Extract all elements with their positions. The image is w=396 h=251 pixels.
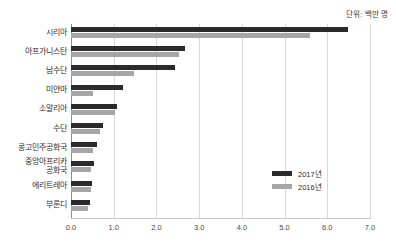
category-label: 아프가니스탄 xyxy=(1,47,67,56)
bar-2017 xyxy=(71,161,94,166)
x-tick-label: 7.0 xyxy=(365,223,375,232)
x-tick-label: 0.0 xyxy=(66,223,76,232)
legend-swatch-2017 xyxy=(272,171,292,176)
bar-group xyxy=(71,26,370,43)
bar-2016 xyxy=(71,52,179,57)
bar-2017 xyxy=(71,200,90,205)
category-label: 중앙아프리카 공화국 xyxy=(1,157,67,175)
bar-2016 xyxy=(71,187,91,192)
legend-swatch-2016 xyxy=(272,184,292,189)
bar-2016 xyxy=(71,148,93,153)
x-tick-label: 1.0 xyxy=(108,223,118,232)
category-label: 남수단 xyxy=(1,66,67,75)
legend-label-2016: 2016년 xyxy=(298,181,322,192)
x-tick-label: 5.0 xyxy=(279,223,289,232)
bar-2017 xyxy=(71,181,92,186)
category-label: 수단 xyxy=(1,124,67,133)
bar-2017 xyxy=(71,85,123,90)
category-label: 소말리아 xyxy=(1,104,67,113)
bar-2016 xyxy=(71,206,88,211)
bar-2016 xyxy=(71,129,100,134)
x-tick-label: 3.0 xyxy=(194,223,204,232)
x-tick-label: 4.0 xyxy=(237,223,247,232)
category-label: 미얀마 xyxy=(1,85,67,94)
category-label: 부룬디 xyxy=(1,200,67,209)
bar-2017 xyxy=(71,104,117,109)
bar-2017 xyxy=(71,123,103,128)
bar-group xyxy=(71,103,370,120)
bar-2016 xyxy=(71,33,310,38)
bar-chart: 단위: 백만 명 시리아아프가니스탄남수단미얀마소말리아수단콩고민주공화국중앙아… xyxy=(0,0,396,251)
bar-2016 xyxy=(71,71,134,76)
bar-group xyxy=(71,45,370,62)
plot-area xyxy=(71,24,370,218)
x-tick-label: 6.0 xyxy=(322,223,332,232)
bar-2017 xyxy=(71,27,348,32)
gridline xyxy=(370,24,371,218)
bar-2016 xyxy=(71,110,115,115)
bar-group xyxy=(71,199,370,216)
bar-2017 xyxy=(71,142,97,147)
legend: 2017년 2016년 xyxy=(272,167,322,193)
legend-item-2016: 2016년 xyxy=(272,180,322,193)
category-label: 콩고민주공화국 xyxy=(1,143,67,152)
legend-item-2017: 2017년 xyxy=(272,167,322,180)
bar-2017 xyxy=(71,46,185,51)
unit-note: 단위: 백만 명 xyxy=(346,8,388,19)
bar-2016 xyxy=(71,91,93,96)
bar-group xyxy=(71,141,370,158)
x-axis-line xyxy=(71,218,371,219)
category-label: 에리트레아 xyxy=(1,181,67,190)
legend-label-2017: 2017년 xyxy=(298,168,322,179)
bar-2017 xyxy=(71,65,175,70)
bar-group xyxy=(71,160,370,177)
category-label: 시리아 xyxy=(1,28,67,37)
bar-group xyxy=(71,84,370,101)
bar-group xyxy=(71,180,370,197)
bar-2016 xyxy=(71,167,91,172)
x-tick-label: 2.0 xyxy=(151,223,161,232)
bar-group xyxy=(71,122,370,139)
bar-group xyxy=(71,64,370,81)
